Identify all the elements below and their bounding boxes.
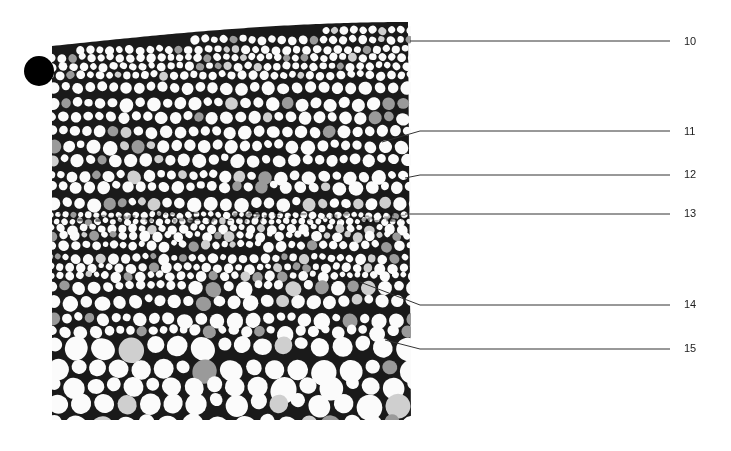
label-11: 11 xyxy=(684,125,695,137)
leader-line-15 xyxy=(385,340,670,349)
label-10: 10 xyxy=(684,35,696,47)
leader-lines xyxy=(0,0,731,451)
leader-line-14 xyxy=(360,282,670,305)
figure: 10 11 12 13 14 15 xyxy=(0,0,731,451)
leader-line-11 xyxy=(382,131,670,142)
label-15: 15 xyxy=(684,342,696,354)
leader-line-12 xyxy=(405,175,670,178)
label-14: 14 xyxy=(684,298,696,310)
label-12: 12 xyxy=(684,168,696,180)
label-13: 13 xyxy=(684,207,696,219)
